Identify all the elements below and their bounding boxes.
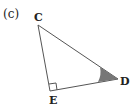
vertex-label-c: C <box>34 11 43 24</box>
triangle-cde <box>38 25 118 91</box>
part-label: (c) <box>3 7 19 21</box>
triangle-diagram: (c) C D E <box>0 0 133 112</box>
vertex-label-d: D <box>120 75 130 88</box>
vertex-label-e: E <box>49 94 57 107</box>
right-angle-marker-e <box>49 83 57 90</box>
